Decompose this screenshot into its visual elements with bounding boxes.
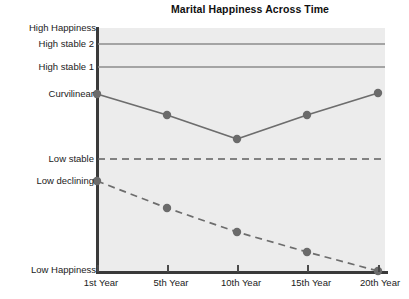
chart-figure: Marital Happiness Across Time High Happi… — [0, 0, 409, 299]
series-line-curvilinear — [97, 93, 378, 139]
data-point-low-declining-4 — [303, 248, 311, 256]
series-label-high-stable-1: High stable 1 — [39, 62, 94, 72]
series-label-low-stable: Low stable — [49, 154, 94, 164]
x-axis-tick-2 — [167, 265, 169, 272]
x-axis-tick-5 — [378, 265, 380, 272]
x-axis-tick-4 — [307, 265, 309, 272]
data-point-low-declining-3 — [233, 228, 241, 236]
x-axis-label-1st-year: 1st Year — [84, 278, 118, 288]
data-point-curvilinear-5 — [374, 89, 382, 97]
data-point-low-declining-2 — [163, 204, 171, 212]
data-point-low-declining-1 — [93, 177, 101, 185]
x-axis-tick-1 — [97, 265, 99, 272]
y-axis-label-low-happiness: Low Happiness — [31, 265, 96, 275]
data-point-curvilinear-4 — [303, 111, 311, 119]
x-axis-label-5th-year: 5th Year — [154, 278, 189, 288]
series-label-curvilinear: Curvilinear — [49, 89, 94, 99]
data-point-curvilinear-1 — [93, 90, 101, 98]
series-label-high-stable-2: High stable 2 — [39, 39, 94, 49]
data-point-curvilinear-3 — [233, 135, 241, 143]
x-axis-label-10th-year: 10th Year — [221, 278, 261, 288]
series-label-low-declining: Low declining — [36, 176, 94, 186]
x-axis-label-20th-year: 20th Year — [360, 278, 400, 288]
x-axis-tick-3 — [237, 265, 239, 272]
data-point-curvilinear-2 — [163, 111, 171, 119]
x-axis-label-15th-year: 15th Year — [291, 278, 331, 288]
series-line-low-declining — [97, 181, 378, 271]
y-axis-label-high-happiness: High Happiness — [29, 23, 96, 33]
